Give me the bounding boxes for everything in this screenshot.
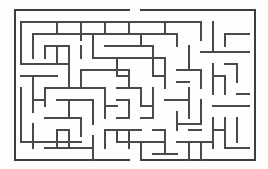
maze-figure	[0, 0, 268, 169]
maze-background	[0, 0, 268, 169]
maze-canvas	[0, 0, 268, 169]
